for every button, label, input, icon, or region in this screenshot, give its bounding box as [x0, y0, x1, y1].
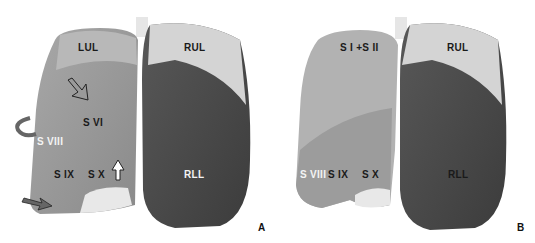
label-s8-b: S VIII: [300, 169, 326, 180]
lung-figure: LUL RUL S VI S VIII S IX S X RLL A S I +…: [0, 0, 535, 243]
label-rul-a: RUL: [184, 42, 205, 53]
panel-label-a: A: [258, 222, 265, 233]
panel-b-lungs: [296, 17, 506, 230]
panel-label-b: B: [517, 222, 524, 233]
label-s10-b: S X: [362, 169, 379, 180]
label-rll-b: RLL: [448, 169, 468, 180]
label-s6: S VI: [83, 117, 103, 128]
label-s8-a: S VIII: [37, 136, 63, 147]
curved-arrow-icon: [17, 118, 36, 135]
label-rll-a: RLL: [184, 169, 204, 180]
lung-illustration: [0, 0, 535, 243]
label-s9-b: S IX: [328, 169, 348, 180]
label-s9-a: S IX: [54, 169, 74, 180]
label-s1s2: S I +S II: [340, 42, 379, 53]
panel-a-lungs: [30, 17, 250, 228]
label-rul-b: RUL: [447, 42, 468, 53]
label-s10-a: S X: [88, 169, 105, 180]
label-lul: LUL: [78, 42, 98, 53]
